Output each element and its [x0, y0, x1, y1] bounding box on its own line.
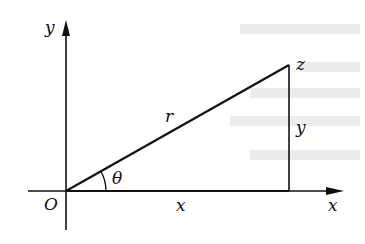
y-axis-label: y	[45, 19, 55, 36]
origin-label: O	[44, 196, 58, 213]
x-axis-label: x	[328, 197, 338, 214]
bleed-through-text	[230, 24, 360, 160]
point-z-label: z	[296, 56, 305, 73]
x-axis-arrow-icon	[326, 187, 344, 195]
angle-arc	[101, 172, 106, 192]
adjacent-side-label: x	[176, 197, 186, 214]
hypotenuse-label: r	[165, 108, 173, 125]
opposite-side-label: y	[296, 119, 306, 136]
hypotenuse-r	[66, 65, 289, 191]
y-axis-arrow-icon	[62, 20, 70, 36]
angle-theta-label: θ	[112, 170, 122, 187]
